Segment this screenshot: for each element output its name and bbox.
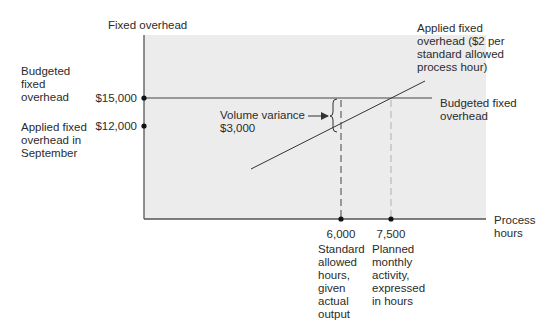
fixed-overhead-chart: Fixed overhead Budgeted fixed overhead A…: [0, 0, 548, 336]
y-tick-12000: $12,000: [84, 120, 137, 133]
dot-6000: [338, 216, 343, 221]
dot-15000: [141, 95, 146, 100]
dot-12000: [141, 123, 146, 128]
x-tick-7500: 7,500: [371, 228, 411, 241]
budgeted-left-caption: Budgeted fixed overhead: [21, 65, 70, 104]
volume-variance-label: Volume variance $3,000: [220, 109, 305, 135]
applied-left-caption: Applied fixed overhead in September: [21, 121, 87, 160]
y-tick-15000: $15,000: [84, 92, 137, 105]
budgeted-line-label: Budgeted fixed overhead: [440, 97, 517, 123]
x-tick-7500-caption: Planned monthly activity, expressed in h…: [372, 243, 425, 308]
dot-7500: [388, 216, 393, 221]
x-axis-title: Process hours: [494, 214, 536, 240]
x-tick-6000-caption: Standard allowed hours, given actual out…: [318, 243, 365, 321]
y-axis-title: Fixed overhead: [108, 19, 187, 32]
applied-line-label: Applied fixed overhead ($2 per standard …: [417, 22, 505, 74]
x-tick-6000: 6,000: [321, 228, 361, 241]
